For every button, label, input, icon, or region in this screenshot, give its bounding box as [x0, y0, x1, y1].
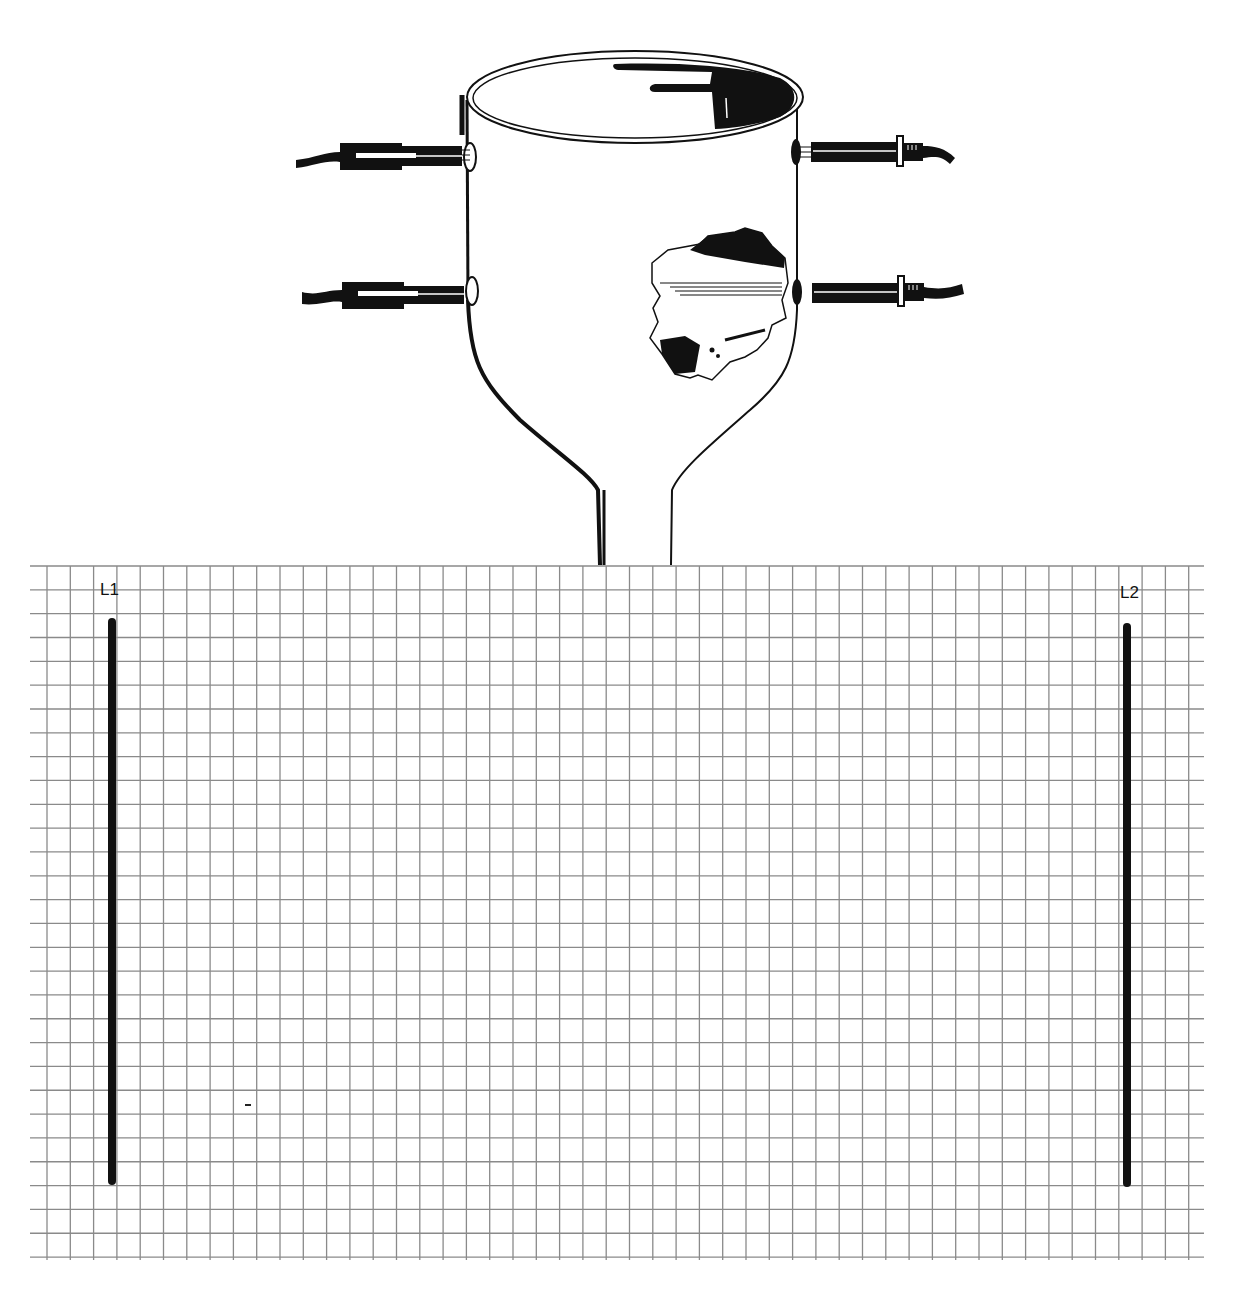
electrode-l1	[108, 618, 116, 1185]
electrode-l2	[1123, 623, 1131, 1187]
vessel-rim	[467, 51, 803, 143]
stray-mark	[245, 1104, 251, 1106]
vessel-apparatus	[0, 0, 1245, 580]
electrode-label-l1: L1	[100, 580, 119, 600]
connector-right-lower	[792, 276, 964, 306]
connector-right-upper	[791, 136, 955, 166]
broken-window	[650, 228, 788, 380]
connector-left-upper	[296, 143, 476, 171]
electrode-label-l2: L2	[1120, 583, 1139, 603]
connector-left-lower	[302, 277, 478, 309]
